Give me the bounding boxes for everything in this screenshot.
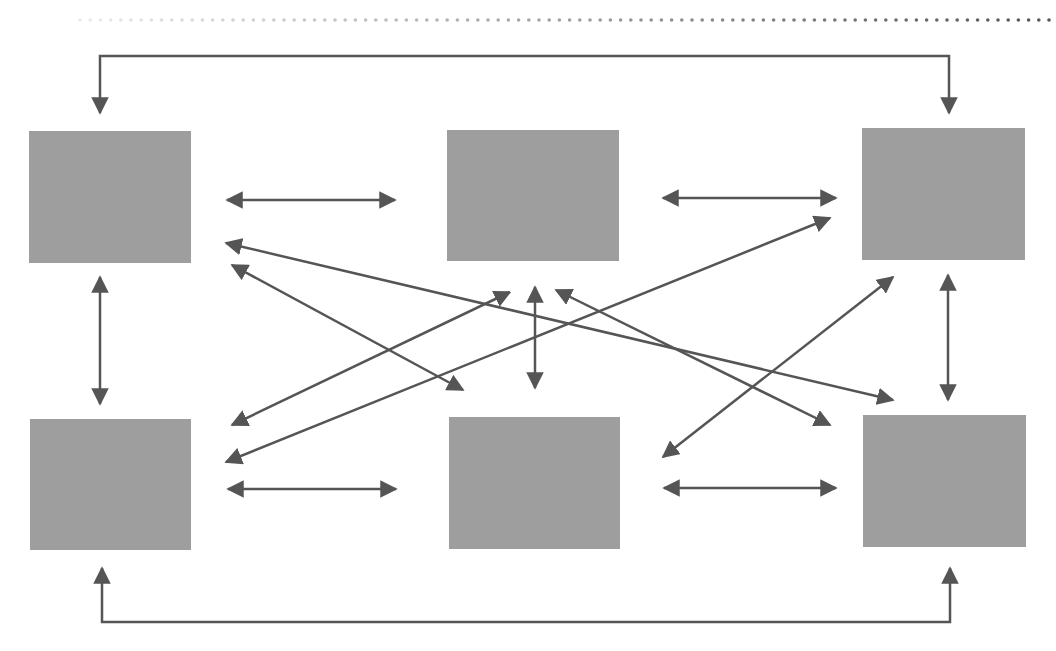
dot xyxy=(343,18,347,22)
dot xyxy=(354,18,358,22)
dot xyxy=(272,18,276,22)
dot xyxy=(925,18,929,22)
dot xyxy=(99,18,103,22)
dot xyxy=(741,18,745,22)
dot xyxy=(445,18,449,22)
dot xyxy=(1006,18,1010,22)
dot xyxy=(415,18,419,22)
dot xyxy=(394,18,398,22)
bottom-bracket xyxy=(102,568,950,622)
node-bottom-middle xyxy=(449,417,620,549)
dot xyxy=(813,18,817,22)
dot xyxy=(231,18,235,22)
dot xyxy=(884,18,888,22)
dot xyxy=(853,18,857,22)
node-top-right xyxy=(862,128,1025,260)
dot xyxy=(864,18,868,22)
dot xyxy=(894,18,898,22)
arrow-tl-bm xyxy=(232,265,463,390)
dot xyxy=(802,18,806,22)
dot xyxy=(374,18,378,22)
dot xyxy=(425,18,429,22)
dot xyxy=(517,18,521,22)
dot xyxy=(649,18,653,22)
dot xyxy=(782,18,786,22)
dot xyxy=(241,18,245,22)
dotted-rule xyxy=(78,18,1051,22)
dot xyxy=(690,18,694,22)
dot xyxy=(568,18,572,22)
dot xyxy=(160,18,164,22)
dot xyxy=(792,18,796,22)
dot xyxy=(955,18,959,22)
dot xyxy=(150,18,154,22)
dot xyxy=(945,18,949,22)
dot xyxy=(282,18,286,22)
dot xyxy=(129,18,133,22)
arrow-bl-tm xyxy=(232,292,510,425)
dot xyxy=(843,18,847,22)
dot xyxy=(119,18,123,22)
dot xyxy=(1037,18,1041,22)
dot xyxy=(333,18,337,22)
dot xyxy=(537,18,541,22)
dot xyxy=(904,18,908,22)
dot xyxy=(486,18,490,22)
dot xyxy=(609,18,613,22)
arrow-bm-tr xyxy=(663,277,893,457)
dot xyxy=(711,18,715,22)
dot xyxy=(721,18,725,22)
dot xyxy=(823,18,827,22)
dot xyxy=(976,18,980,22)
dot xyxy=(180,18,184,22)
dot xyxy=(527,18,531,22)
dot xyxy=(405,18,409,22)
dot xyxy=(588,18,592,22)
dot xyxy=(598,18,602,22)
dot xyxy=(170,18,174,22)
dot xyxy=(221,18,225,22)
dot xyxy=(731,18,735,22)
arrow-tl-br xyxy=(226,243,893,400)
dot xyxy=(466,18,470,22)
dot xyxy=(629,18,633,22)
dot xyxy=(874,18,878,22)
dot xyxy=(670,18,674,22)
dot xyxy=(966,18,970,22)
dot xyxy=(384,18,388,22)
dot xyxy=(190,18,194,22)
dot xyxy=(639,18,643,22)
network-diagram xyxy=(0,0,1056,651)
dot xyxy=(700,18,704,22)
dot xyxy=(986,18,990,22)
dot xyxy=(833,18,837,22)
dot xyxy=(996,18,1000,22)
node-bottom-right xyxy=(863,415,1026,547)
dot xyxy=(915,18,919,22)
dot xyxy=(935,18,939,22)
dot xyxy=(1047,18,1051,22)
dot xyxy=(772,18,776,22)
node-bottom-left xyxy=(30,419,191,550)
dot xyxy=(252,18,256,22)
dot xyxy=(751,18,755,22)
dot xyxy=(139,18,143,22)
dot xyxy=(211,18,215,22)
dot xyxy=(507,18,511,22)
dot xyxy=(201,18,205,22)
dot xyxy=(364,18,368,22)
dot xyxy=(547,18,551,22)
dot xyxy=(292,18,296,22)
dot xyxy=(109,18,113,22)
top-bracket xyxy=(100,56,949,113)
node-top-left xyxy=(29,131,191,263)
dot xyxy=(313,18,317,22)
dot xyxy=(303,18,307,22)
node-top-middle xyxy=(447,130,619,261)
dot xyxy=(578,18,582,22)
dot xyxy=(496,18,500,22)
dot xyxy=(680,18,684,22)
dot xyxy=(619,18,623,22)
dot xyxy=(762,18,766,22)
dot xyxy=(1017,18,1021,22)
